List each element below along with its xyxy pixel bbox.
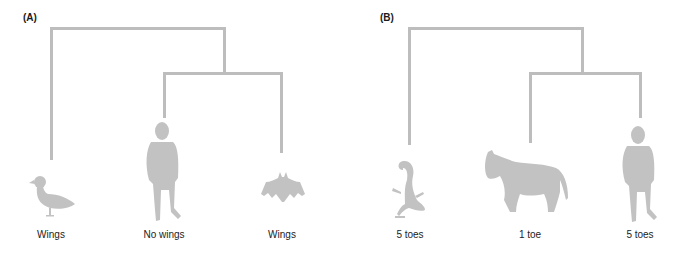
human-branch-a xyxy=(163,72,166,118)
taxon-label-horse: 1 toe xyxy=(490,229,570,240)
root-branch-a xyxy=(50,27,226,30)
panel-b-label: (B) xyxy=(380,12,394,23)
duck-icon xyxy=(28,170,78,220)
root-to-inner-branch-b xyxy=(581,27,584,75)
inner-branch-a xyxy=(163,72,283,75)
panel-a-label: (A) xyxy=(23,12,37,23)
horse-icon xyxy=(484,148,572,220)
taxon-label-human-a: No wings xyxy=(124,229,204,240)
root-branch-b xyxy=(408,27,584,30)
root-to-inner-branch-a xyxy=(223,27,226,75)
taxon-label-bat: Wings xyxy=(242,229,322,240)
human-icon xyxy=(141,120,189,225)
duck-branch xyxy=(50,27,53,160)
taxon-label-duck: Wings xyxy=(11,229,91,240)
lizard-branch xyxy=(408,27,411,145)
taxon-label-human-b: 5 toes xyxy=(600,229,679,240)
taxon-label-lizard: 5 toes xyxy=(370,229,450,240)
human-icon xyxy=(618,125,666,225)
lizard-icon xyxy=(391,158,431,220)
inner-branch-b xyxy=(529,72,642,75)
horse-branch xyxy=(529,72,532,143)
bat-icon xyxy=(258,172,308,208)
bat-branch xyxy=(280,72,283,153)
human-branch-b xyxy=(639,72,642,118)
